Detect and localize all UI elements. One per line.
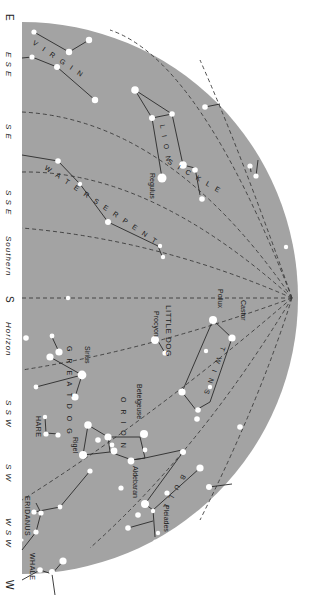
label-castor: Castor (240, 300, 247, 321)
label-aldebaran: Aldebaran (132, 466, 139, 498)
star-aldebaran (141, 500, 149, 508)
label-regulus: Regulus (148, 173, 156, 199)
label-hare: HARE (35, 416, 42, 437)
label-pollux: Pollux (217, 289, 224, 309)
direction-w: W (4, 580, 15, 590)
star-chart: E E S E S E S S E Southern S Horizon S S… (0, 0, 313, 600)
star-pleiades (153, 539, 156, 542)
star-sirius (78, 371, 87, 380)
direction-ssw: S S W (4, 400, 13, 428)
label-whale: WHALE (29, 553, 36, 580)
star-betelgeuse (140, 430, 148, 438)
label-rigel: Rigel (71, 437, 79, 453)
direction-horizon: Horizon (4, 322, 13, 357)
direction-s: S (4, 296, 15, 304)
direction-southern: Southern (4, 236, 13, 276)
star-pollux (209, 316, 217, 324)
label-procyon: Procyon (152, 311, 160, 337)
label-great-dog: G R E A T D O G (66, 346, 73, 436)
label-sirius: Sirius (84, 346, 91, 364)
label-little-dog: LITTLE DOG (164, 305, 173, 357)
star-castor (228, 334, 235, 341)
label-eridanus: ERIDANUS (24, 496, 31, 536)
horizon-labels: E E S E S E S S E Southern S Horizon S S… (4, 14, 15, 590)
direction-ese: E S E (4, 52, 13, 77)
label-betelgeuse: Betelgeuse (135, 384, 143, 419)
direction-sw: S W (4, 464, 13, 483)
label-pleiades: Pleiades (163, 505, 170, 532)
direction-wsw: W S W (4, 518, 13, 548)
star-regulus (158, 174, 167, 183)
label-orion: O R I O N (120, 397, 127, 450)
star-rigel (79, 451, 87, 459)
direction-e: E (4, 14, 15, 22)
direction-sse: S S E (4, 190, 13, 215)
star-procyon (151, 336, 159, 344)
direction-se: S E (4, 124, 13, 140)
